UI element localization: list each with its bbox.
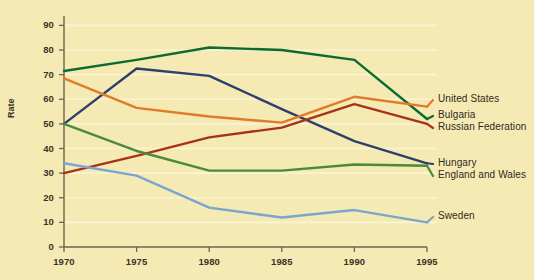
y-tick-label: 90 xyxy=(28,19,54,30)
legend-leader-line xyxy=(427,100,433,107)
series-line-russian-federation xyxy=(64,104,427,173)
series-lines xyxy=(64,48,427,223)
x-tick-label: 1980 xyxy=(189,256,229,267)
y-tick-label: 0 xyxy=(28,241,54,252)
line-chart: Rate 0102030405060708090 197019751980198… xyxy=(0,0,534,280)
x-tick-label: 1975 xyxy=(117,256,157,267)
series-line-united-states xyxy=(64,78,427,122)
y-tick-label: 80 xyxy=(28,44,54,55)
legend-leader-line xyxy=(427,116,433,119)
series-label-united-states: United States xyxy=(438,93,499,104)
legend-leader-line xyxy=(427,217,433,222)
x-tick-label: 1970 xyxy=(44,256,84,267)
y-tick-label: 20 xyxy=(28,192,54,203)
legend-leader-line xyxy=(427,163,433,164)
series-label-sweden: Sweden xyxy=(438,210,475,221)
series-label-england-and-wales: England and Wales xyxy=(438,169,526,180)
y-tick-label: 60 xyxy=(28,93,54,104)
series-label-hungary: Hungary xyxy=(438,157,477,168)
x-tick-label: 1985 xyxy=(262,256,302,267)
series-label-russian-federation: Russian Federation xyxy=(438,121,527,132)
series-label-bulgaria: Bulgaria xyxy=(438,109,476,120)
y-tick-label: 40 xyxy=(28,143,54,154)
x-tick-label: 1995 xyxy=(407,256,447,267)
legend-leader-line xyxy=(427,166,433,176)
gridlines xyxy=(64,25,437,222)
y-tick-label: 70 xyxy=(28,69,54,80)
series-line-sweden xyxy=(64,163,427,222)
y-tick-label: 30 xyxy=(28,167,54,178)
axis-ticks xyxy=(59,25,427,252)
y-tick-label: 10 xyxy=(28,216,54,227)
x-tick-label: 1990 xyxy=(334,256,374,267)
legend-leader-lines xyxy=(427,100,433,222)
plot-area xyxy=(0,0,534,280)
y-axis-title: Rate xyxy=(6,98,16,118)
y-tick-label: 50 xyxy=(28,118,54,129)
